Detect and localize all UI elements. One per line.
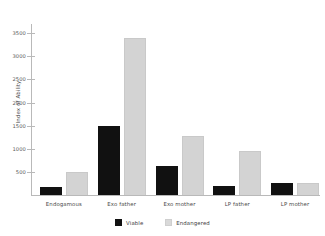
y-tick-mark [27,172,35,173]
legend-swatch-icon [165,219,172,226]
y-tick-label: 3000 [12,53,26,59]
legend-entry-viable: Viable [115,219,143,226]
y-axis-line [31,24,32,196]
y-tick-label: 1500 [12,123,26,129]
y-tick-mark [27,126,35,127]
bar-endangered-endogamous [66,172,88,195]
bar-endangered-lp-mother [297,183,319,195]
legend-label: Endangered [176,220,210,226]
legend-swatch-icon [115,219,122,226]
bar-chart-figure: Index of Ability 50010001500200025003000… [0,0,325,236]
y-tick-label: 1000 [12,146,26,152]
y-tick-label: 2500 [12,76,26,82]
y-tick-label: 3500 [12,30,26,36]
y-tick-mark [27,56,35,57]
legend-entry-endangered: Endangered [165,219,210,226]
y-tick-mark [27,103,35,104]
x-category-label: Exo mother [163,201,195,207]
x-category-label: LP father [225,201,250,207]
bar-viable-lp-mother [271,183,293,195]
x-axis-line [31,195,320,196]
x-category-label: LP mother [281,201,309,207]
bar-viable-endogamous [40,187,62,195]
chart-legend: ViableEndangered [0,219,325,226]
legend-label: Viable [126,220,143,226]
bar-viable-exo-father [98,126,120,195]
y-tick-mark [27,79,35,80]
y-tick-mark [27,33,35,34]
bar-endangered-exo-father [124,38,146,195]
bar-endangered-exo-mother [182,136,204,195]
bar-viable-lp-father [213,186,235,195]
bar-viable-exo-mother [156,166,178,195]
x-category-label: Endogamous [46,201,82,207]
bar-endangered-lp-father [239,151,261,195]
plot-area: 500100015002000250030003500 EndogamousEx… [31,24,320,196]
y-tick-label: 2000 [12,100,26,106]
y-tick-label: 500 [16,169,26,175]
y-tick-mark [27,149,35,150]
x-category-label: Exo father [107,201,136,207]
